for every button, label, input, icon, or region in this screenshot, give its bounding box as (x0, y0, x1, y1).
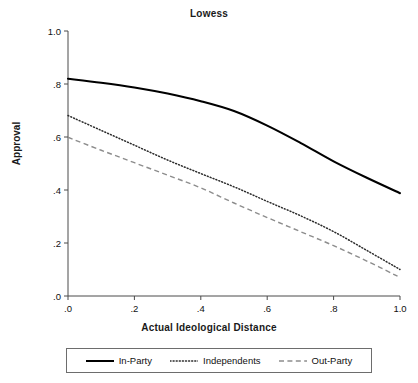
lowess-chart-figure: Lowess Approval .0.2.4.6.81.0.0.2.4.6.81… (0, 0, 418, 383)
y-tick-label: .0 (53, 291, 61, 302)
legend-entry-independents[interactable]: Independents (161, 355, 270, 366)
x-tick-label: 1.0 (393, 303, 406, 314)
y-tick-label: .4 (53, 185, 61, 196)
data-series (68, 79, 400, 278)
legend-label: Independents (203, 355, 261, 366)
axes: .0.2.4.6.81.0.0.2.4.6.81.0 (48, 26, 407, 314)
y-tick-label: .2 (53, 238, 61, 249)
dashed-line-sample (279, 357, 307, 365)
y-tick-label: .8 (53, 79, 61, 90)
chart-legend: In-PartyIndependentsOut-Party (66, 348, 372, 373)
legend-entry-out-party[interactable]: Out-Party (270, 355, 362, 366)
legend-label: Out-Party (312, 355, 353, 366)
dotted-line-sample (170, 357, 198, 365)
series-line-independents (68, 116, 400, 270)
x-tick-label: .4 (197, 303, 205, 314)
y-tick-label: 1.0 (48, 26, 61, 37)
x-tick-label: .6 (263, 303, 271, 314)
legend-entry-in-party[interactable]: In-Party (77, 355, 161, 366)
series-line-in-party (68, 79, 400, 193)
solid-line-sample (86, 357, 114, 365)
series-line-out-party (68, 137, 400, 277)
x-tick-label: .2 (130, 303, 138, 314)
y-tick-label: .6 (53, 132, 61, 143)
legend-label: In-Party (119, 355, 152, 366)
x-axis-label: Actual Ideological Distance (0, 322, 418, 333)
x-tick-label: .8 (330, 303, 338, 314)
page-edge-artifact (0, 377, 418, 383)
x-tick-label: .0 (64, 303, 72, 314)
